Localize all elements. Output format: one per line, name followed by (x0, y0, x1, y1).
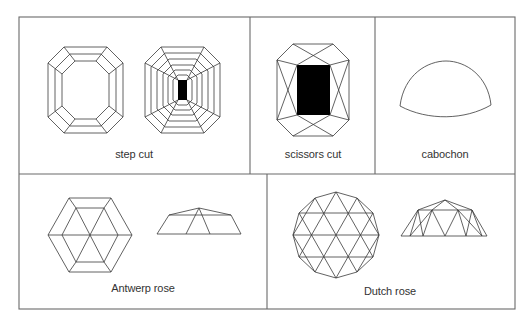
step-cut-multistep-icon (145, 47, 220, 133)
label-antwerp-rose: Antwerp rose (111, 282, 175, 294)
scissors-cut-icon (277, 44, 349, 136)
antwerp-rose-top-icon (48, 198, 132, 272)
dutch-rose-profile-icon (401, 200, 487, 236)
dutch-rose-top-icon (293, 192, 379, 278)
label-scissors-cut: scissors cut (285, 148, 341, 160)
label-cabochon: cabochon (422, 148, 469, 160)
label-step-cut: step cut (115, 148, 153, 160)
step-cut-emerald-icon (48, 47, 123, 133)
antwerp-rose-profile-icon (157, 208, 241, 234)
label-dutch-rose: Dutch rose (364, 285, 416, 297)
cabochon-icon (400, 61, 491, 117)
